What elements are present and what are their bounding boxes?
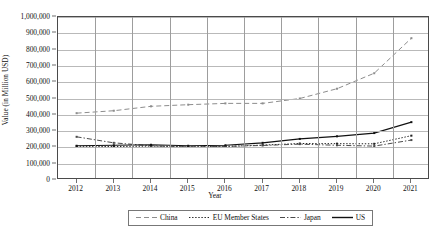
horizontal-gridline bbox=[58, 17, 428, 18]
horizontal-gridline bbox=[58, 115, 428, 116]
horizontal-gridline bbox=[58, 164, 428, 165]
vertical-gridline bbox=[95, 17, 96, 178]
data-point-marker bbox=[113, 142, 115, 144]
vertical-gridline bbox=[318, 17, 319, 178]
vertical-gridline bbox=[207, 17, 208, 178]
y-axis-title-text: Value (in Million USD) bbox=[2, 55, 10, 125]
legend-item-eu-member-states: EU Member States bbox=[189, 213, 269, 222]
data-point-marker bbox=[336, 144, 338, 146]
legend-label: US bbox=[356, 213, 365, 222]
y-tick-label: 800,000 bbox=[26, 44, 50, 53]
legend-label: EU Member States bbox=[213, 213, 269, 222]
data-point-marker bbox=[262, 142, 264, 144]
data-point-marker bbox=[410, 139, 412, 141]
y-tick-label: 900,000 bbox=[26, 28, 50, 37]
y-tick-label: 200,000 bbox=[26, 142, 50, 151]
data-point-marker bbox=[76, 112, 78, 114]
data-point-marker bbox=[336, 135, 338, 137]
y-tick-mark bbox=[52, 130, 56, 131]
horizontal-gridline bbox=[58, 82, 428, 83]
horizontal-gridline bbox=[58, 147, 428, 148]
y-tick-mark bbox=[52, 16, 56, 17]
y-tick-mark bbox=[52, 162, 56, 163]
y-tick-label: 600,000 bbox=[26, 77, 50, 86]
x-tick-mark bbox=[150, 179, 151, 183]
data-point-marker bbox=[410, 37, 412, 39]
legend-swatch-solid bbox=[332, 214, 353, 221]
legend-swatch-dash-dot bbox=[280, 214, 301, 221]
y-tick-label: 0 bbox=[46, 175, 50, 184]
y-tick-label: 700,000 bbox=[26, 60, 50, 69]
y-tick-mark bbox=[52, 81, 56, 82]
chart-legend: ChinaEU Member StatesJapanUS bbox=[128, 210, 373, 226]
legend-item-china: China bbox=[136, 213, 178, 222]
data-point-marker bbox=[262, 102, 264, 104]
y-tick-label: 500,000 bbox=[26, 93, 50, 102]
x-tick-mark bbox=[113, 179, 114, 183]
y-axis-tick-labels: 0100,000200,000300,000400,000500,000600,… bbox=[14, 0, 56, 196]
vertical-gridline bbox=[170, 17, 171, 178]
legend-item-japan: Japan bbox=[280, 213, 321, 222]
legend-label: Japan bbox=[304, 213, 321, 222]
y-tick-mark bbox=[52, 48, 56, 49]
legend-item-us: US bbox=[332, 213, 365, 222]
data-point-marker bbox=[224, 102, 226, 104]
plot-area bbox=[57, 16, 429, 179]
x-tick-mark bbox=[373, 179, 374, 183]
x-tick-mark bbox=[76, 179, 77, 183]
x-tick-mark bbox=[224, 179, 225, 183]
legend-swatch-dashed bbox=[136, 214, 157, 221]
data-point-marker bbox=[299, 143, 301, 145]
x-axis-title-text: Year bbox=[208, 191, 222, 200]
data-point-marker bbox=[373, 143, 375, 145]
legend-label: China bbox=[160, 213, 178, 222]
legend-swatch-dotted bbox=[189, 214, 210, 221]
horizontal-gridline bbox=[58, 99, 428, 100]
y-tick-mark bbox=[52, 64, 56, 65]
data-point-marker bbox=[373, 132, 375, 134]
data-point-marker bbox=[410, 121, 412, 123]
horizontal-gridline bbox=[58, 66, 428, 67]
horizontal-gridline bbox=[58, 131, 428, 132]
vertical-gridline bbox=[132, 17, 133, 178]
x-tick-mark bbox=[336, 179, 337, 183]
data-point-marker bbox=[373, 72, 375, 74]
data-point-marker bbox=[224, 144, 226, 146]
data-point-marker bbox=[150, 144, 152, 146]
data-point-marker bbox=[410, 135, 412, 137]
y-tick-mark bbox=[52, 32, 56, 33]
line-chart-figure: Value (in Million USD) 0100,000200,00030… bbox=[0, 0, 436, 236]
x-tick-mark bbox=[187, 179, 188, 183]
vertical-gridline bbox=[393, 17, 394, 178]
x-tick-mark bbox=[410, 179, 411, 183]
y-tick-mark bbox=[52, 179, 56, 180]
y-tick-label: 1,000,000 bbox=[20, 12, 50, 21]
y-axis-title: Value (in Million USD) bbox=[0, 0, 14, 180]
data-point-marker bbox=[76, 136, 78, 138]
data-point-marker bbox=[336, 88, 338, 90]
x-tick-mark bbox=[299, 179, 300, 183]
vertical-gridline bbox=[244, 17, 245, 178]
y-tick-label: 300,000 bbox=[26, 126, 50, 135]
x-tick-mark bbox=[262, 179, 263, 183]
y-tick-mark bbox=[52, 146, 56, 147]
vertical-gridline bbox=[281, 17, 282, 178]
data-point-marker bbox=[299, 138, 301, 140]
y-tick-mark bbox=[52, 113, 56, 114]
y-tick-label: 100,000 bbox=[26, 158, 50, 167]
data-point-marker bbox=[187, 104, 189, 106]
data-point-marker bbox=[113, 144, 115, 146]
horizontal-gridline bbox=[58, 50, 428, 51]
x-axis-title: Year bbox=[0, 191, 436, 200]
data-point-marker bbox=[150, 105, 152, 107]
data-point-marker bbox=[113, 110, 115, 112]
y-tick-label: 400,000 bbox=[26, 109, 50, 118]
vertical-gridline bbox=[356, 17, 357, 178]
horizontal-gridline bbox=[58, 33, 428, 34]
y-tick-mark bbox=[52, 97, 56, 98]
